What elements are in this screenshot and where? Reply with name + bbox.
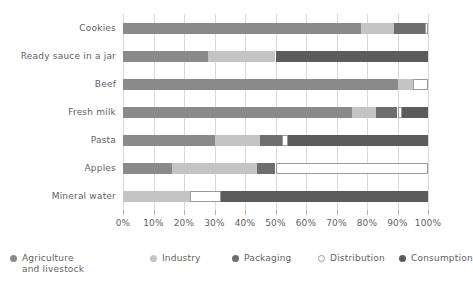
- legend-label: Packaging: [244, 253, 292, 264]
- legend-label: Agriculture and livestock: [22, 253, 84, 275]
- bar-segment-agriculture: [123, 135, 215, 146]
- x-axis-tick: [184, 210, 185, 215]
- bar-segment-consumption: [288, 135, 428, 146]
- bar-segment-agriculture: [123, 107, 352, 118]
- plot-area: [123, 14, 428, 210]
- legend-swatch-icon: [318, 255, 325, 262]
- bar-row: [123, 51, 428, 62]
- bar-segment-industry: [123, 191, 190, 202]
- bar-row: [123, 79, 428, 90]
- x-axis-tick-label: 100%: [415, 218, 442, 229]
- x-axis-tick-label: 60%: [296, 218, 317, 229]
- bar-segment-distribution: [190, 191, 221, 202]
- x-axis-tick: [276, 210, 277, 215]
- legend-item[interactable]: Consumption: [399, 253, 473, 264]
- x-axis-tick-label: 40%: [235, 218, 256, 229]
- x-axis-tick-label: 30%: [204, 218, 225, 229]
- x-axis-tick-label: 0%: [116, 218, 131, 229]
- bar-segment-packaging: [260, 135, 281, 146]
- bar-segment-industry: [172, 163, 257, 174]
- bar-segment-industry: [398, 79, 413, 90]
- bar-segment-industry: [208, 51, 275, 62]
- x-axis-tick: [215, 210, 216, 215]
- x-axis-tick-label: 80%: [357, 218, 378, 229]
- x-axis-tick: [306, 210, 307, 215]
- x-axis-tick: [154, 210, 155, 215]
- legend-item[interactable]: Agriculture and livestock: [10, 253, 84, 275]
- bar-row: [123, 163, 428, 174]
- bar-segment-distribution: [425, 23, 428, 34]
- y-axis-label: Beef: [0, 79, 116, 89]
- bar-segment-agriculture: [123, 51, 208, 62]
- bar-series-container: [123, 14, 428, 210]
- y-axis-label: Ready sauce in a jar: [0, 51, 116, 61]
- bar-segment-agriculture: [123, 79, 398, 90]
- bar-row: [123, 135, 428, 146]
- legend-swatch-icon: [10, 255, 17, 262]
- x-axis-tick-label: 90%: [387, 218, 408, 229]
- y-axis-label: Mineral water: [0, 191, 116, 201]
- x-axis-tick-label: 20%: [174, 218, 195, 229]
- bar-segment-distribution: [413, 79, 428, 90]
- bar-row: [123, 107, 428, 118]
- y-axis-label: Cookies: [0, 23, 116, 33]
- x-axis-tick-labels: 0%10%20%30%40%50%60%70%80%90%100%: [0, 218, 452, 232]
- y-axis-category-labels: CookiesReady sauce in a jarBeefFresh mil…: [0, 14, 116, 210]
- bar-segment-packaging: [394, 23, 425, 34]
- x-axis-tick: [428, 210, 429, 215]
- legend-item[interactable]: Industry: [150, 253, 201, 264]
- x-axis-tick: [398, 210, 399, 215]
- y-axis-label: Apples: [0, 163, 116, 173]
- legend-swatch-icon: [150, 255, 157, 262]
- bar-segment-industry: [215, 135, 261, 146]
- x-axis-tick: [123, 210, 124, 215]
- y-axis-label: Pasta: [0, 135, 116, 145]
- legend-item[interactable]: Distribution: [318, 253, 385, 264]
- bar-segment-industry: [361, 23, 395, 34]
- bar-row: [123, 23, 428, 34]
- bar-row: [123, 191, 428, 202]
- bar-segment-packaging: [257, 163, 275, 174]
- bar-segment-packaging: [376, 107, 397, 118]
- legend-label: Consumption: [411, 253, 473, 264]
- gridline: [428, 14, 429, 210]
- legend-swatch-icon: [399, 255, 406, 262]
- x-axis-tick-label: 70%: [326, 218, 347, 229]
- bar-segment-distribution: [276, 163, 429, 174]
- legend-item[interactable]: Packaging: [232, 253, 292, 264]
- legend-label: Industry: [162, 253, 201, 264]
- plot-wrapper: CookiesReady sauce in a jarBeefFresh mil…: [0, 0, 452, 240]
- legend-label: Distribution: [330, 253, 385, 264]
- bar-segment-industry: [352, 107, 376, 118]
- x-axis-tick-label: 10%: [143, 218, 164, 229]
- y-axis-label: Fresh milk: [0, 107, 116, 117]
- x-axis-tick-label: 50%: [265, 218, 286, 229]
- x-axis-tick: [337, 210, 338, 215]
- legend-swatch-icon: [232, 255, 239, 262]
- x-axis-tick: [367, 210, 368, 215]
- bar-segment-agriculture: [123, 163, 172, 174]
- bar-segment-agriculture: [123, 23, 361, 34]
- x-axis-tick: [245, 210, 246, 215]
- chart-legend: Agriculture and livestockIndustryPackagi…: [0, 253, 452, 293]
- x-axis-ticks: [123, 210, 428, 216]
- bar-segment-consumption: [221, 191, 428, 202]
- bar-segment-consumption: [276, 51, 429, 62]
- bar-segment-consumption: [402, 107, 428, 118]
